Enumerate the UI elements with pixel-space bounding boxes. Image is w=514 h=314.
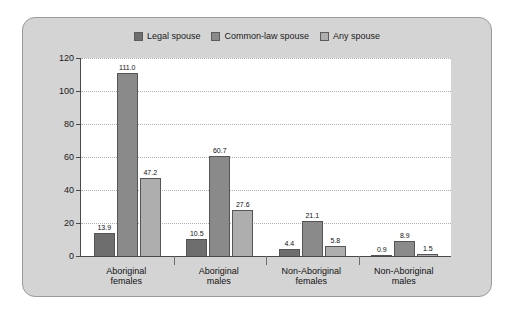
bar-value-label: 60.7: [213, 147, 227, 154]
bar[interactable]: [117, 73, 138, 256]
bar-value-label: 10.5: [190, 230, 204, 237]
x-axis-label-line: males: [173, 276, 266, 286]
x-axis-label: Non-Aboriginalmales: [358, 266, 451, 287]
chart-card: Legal spouse Common-law spouse Any spous…: [22, 17, 492, 297]
x-axis-label: Aboriginalfemales: [80, 266, 173, 287]
legend-label: Legal spouse: [147, 32, 201, 41]
legend-item-any-spouse: Any spouse: [320, 32, 380, 41]
y-tick-label: 120: [59, 53, 74, 63]
bar-value-label: 8.9: [400, 232, 410, 239]
bar-value-label: 27.6: [236, 201, 250, 208]
bar-slot: 27.6: [232, 58, 253, 256]
x-axis-group-separator: [359, 256, 360, 265]
bar-value-label: 47.2: [143, 169, 157, 176]
bar-value-label: 4.4: [284, 240, 294, 247]
x-axis-label: Non-Aboriginalfemales: [265, 266, 358, 287]
bar-slot: 60.7: [209, 58, 230, 256]
bar[interactable]: [417, 254, 438, 256]
bar-slot: 21.1: [302, 58, 323, 256]
bar[interactable]: [186, 239, 207, 256]
bar-value-label: 13.9: [97, 224, 111, 231]
x-axis-label-line: Non-Aboriginal: [265, 266, 358, 276]
bar-value-label: 0.9: [377, 246, 387, 253]
x-axis-label-line: females: [80, 276, 173, 286]
x-axis-label: Aboriginalmales: [173, 266, 266, 287]
bar-slot: 5.8: [325, 58, 346, 256]
bar[interactable]: [394, 241, 415, 256]
y-tick-label: 20: [64, 218, 74, 228]
bar[interactable]: [140, 178, 161, 256]
bar[interactable]: [209, 156, 230, 256]
bar-groups: 13.9111.047.210.560.727.64.421.15.80.98.…: [81, 58, 451, 256]
legend-swatch-icon: [134, 32, 143, 41]
bar-slot: 8.9: [394, 58, 415, 256]
y-tick-label: 0: [69, 251, 74, 261]
x-axis-label-line: Aboriginal: [80, 266, 173, 276]
bar-slot: 10.5: [186, 58, 207, 256]
bar[interactable]: [94, 233, 115, 256]
bar-slot: 47.2: [140, 58, 161, 256]
x-axis-label-line: males: [358, 276, 451, 286]
y-tick-label: 100: [59, 86, 74, 96]
legend-swatch-icon: [211, 32, 220, 41]
bar-group: 0.98.91.5: [359, 58, 452, 256]
legend-item-common-law-spouse: Common-law spouse: [211, 32, 309, 41]
plot-wrapper: Rate per million couples 120100806040200…: [80, 58, 450, 256]
y-tick-label: 80: [64, 119, 74, 129]
x-axis-label-line: Non-Aboriginal: [358, 266, 451, 276]
y-tick-label: 60: [64, 152, 74, 162]
bar-slot: 4.4: [279, 58, 300, 256]
bar[interactable]: [232, 210, 253, 256]
legend-label: Common-law spouse: [224, 32, 309, 41]
bar-group: 4.421.15.8: [266, 58, 359, 256]
x-axis-group-separator: [266, 256, 267, 265]
bar-slot: 1.5: [417, 58, 438, 256]
x-axis-labels: AboriginalfemalesAboriginalmalesNon-Abor…: [80, 266, 450, 287]
bar-slot: 111.0: [117, 58, 138, 256]
bar[interactable]: [325, 246, 346, 256]
x-axis-label-line: females: [265, 276, 358, 286]
bar[interactable]: [302, 221, 323, 256]
chart-legend: Legal spouse Common-law spouse Any spous…: [23, 32, 491, 41]
bar-slot: 13.9: [94, 58, 115, 256]
plot-area: 120100806040200 13.9111.047.210.560.727.…: [80, 58, 451, 257]
bar-group: 10.560.727.6: [174, 58, 267, 256]
bar-value-label: 111.0: [119, 64, 135, 71]
bar[interactable]: [371, 255, 392, 256]
bar-value-label: 1.5: [423, 245, 433, 252]
bar-slot: 0.9: [371, 58, 392, 256]
legend-label: Any spouse: [333, 32, 380, 41]
legend-item-legal-spouse: Legal spouse: [134, 32, 201, 41]
x-axis-group-separator: [174, 256, 175, 265]
x-axis-label-line: Aboriginal: [173, 266, 266, 276]
bar-value-label: 21.1: [305, 212, 319, 219]
bar-value-label: 5.8: [330, 237, 340, 244]
bar[interactable]: [279, 249, 300, 256]
y-tick-mark: [76, 256, 81, 257]
bar-group: 13.9111.047.2: [81, 58, 174, 256]
y-tick-label: 40: [64, 185, 74, 195]
legend-swatch-icon: [320, 32, 329, 41]
